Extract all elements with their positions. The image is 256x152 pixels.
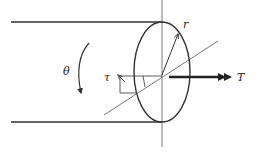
r-label: r (183, 18, 189, 31)
rotation-arrow (79, 43, 89, 93)
torsion-diagram: r T τ θ (0, 0, 256, 152)
torque-arrowhead-icon (218, 73, 232, 81)
angle-tick (143, 76, 145, 87)
tau-label: τ (104, 71, 111, 84)
T-label: T (237, 71, 246, 84)
theta-label: θ (63, 65, 70, 78)
